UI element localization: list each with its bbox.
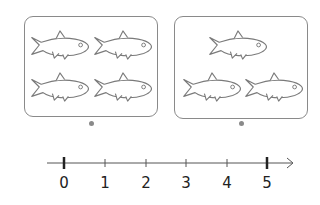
tick-label-3: 3 — [176, 174, 196, 192]
tick-label-0: 0 — [54, 174, 74, 192]
tick-label-5: 5 — [257, 174, 277, 192]
tick-label-1: 1 — [95, 174, 115, 192]
tick-label-2: 2 — [136, 174, 156, 192]
tick-label-4: 4 — [217, 174, 237, 192]
